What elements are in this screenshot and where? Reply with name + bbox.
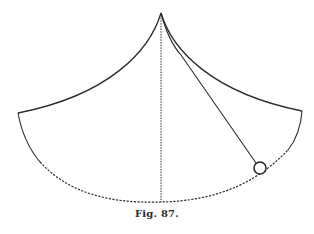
- bob-path-arc: [40, 150, 288, 202]
- pendulum-string: [161, 13, 256, 163]
- pendulum-bob: [254, 162, 266, 174]
- left-cusp-edge: [18, 113, 40, 162]
- right-cycloid-cheek: [161, 13, 302, 111]
- figure-caption: Fig. 87.: [0, 208, 314, 219]
- cycloidal-pendulum-diagram: [0, 0, 314, 234]
- right-cusp-edge: [288, 111, 302, 150]
- left-cycloid-cheek: [18, 13, 161, 113]
